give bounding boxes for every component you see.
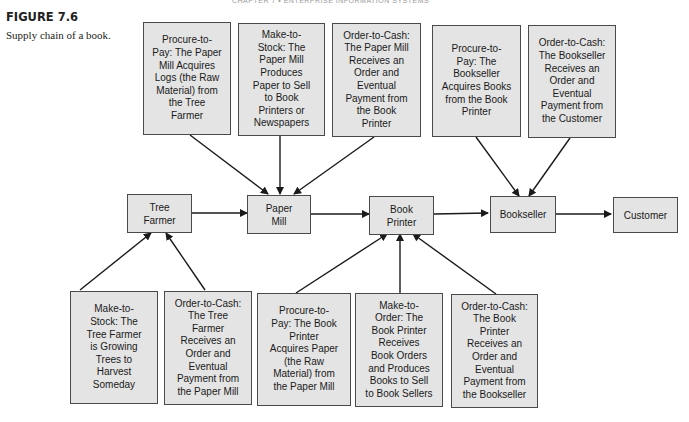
bottom-box-book-printer-procure-to-pay: Procure-to- Pay: The Book Printer Acquir… — [257, 293, 351, 406]
top-box-paper-mill-make-to-stock: Make-to- Stock: The Paper Mill Produces … — [238, 23, 325, 136]
bottom-box-book-printer-make-to-order: Make-to- Order: The Book Printer Receive… — [355, 293, 443, 407]
top-box-paper-mill-order-to-cash: Order-to-Cash: The Paper Mill Receives a… — [332, 23, 421, 137]
bottom-box-tree-farmer-make-to-stock: Make-to- Stock: The Tree Farmer is Growi… — [70, 291, 158, 404]
bottom-box-tree-farmer-order-to-cash: Order-to-Cash: The Tree Farmer Receives … — [164, 291, 252, 405]
node-customer: Customer — [613, 197, 678, 233]
node-book-printer: Book Printer — [369, 196, 434, 235]
bottom-box-book-printer-order-to-cash: Order-to-Cash: The Book Printer Receives… — [451, 294, 538, 408]
top-box-bookseller-procure-to-pay: Procure-to- Pay: The Bookseller Acquires… — [432, 25, 521, 137]
node-bookseller: Bookseller — [490, 196, 556, 233]
node-paper-mill: Paper Mill — [247, 195, 311, 234]
node-tree-farmer: Tree Farmer — [127, 194, 192, 233]
top-box-bookseller-order-to-cash: Order-to-Cash: The Bookseller Receives a… — [528, 25, 616, 138]
top-box-paper-mill-procure-to-pay: Procure-to- Pay: The Paper Mill Acquires… — [143, 22, 231, 135]
